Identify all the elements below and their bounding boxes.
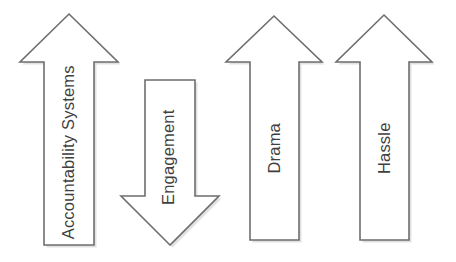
arrow-up-drama[interactable] (226, 16, 322, 240)
arrow-up-accountability-systems[interactable] (20, 14, 118, 245)
arrows-layer (0, 0, 456, 262)
arrow-outlines (20, 14, 432, 245)
arrow-down-engagement[interactable] (121, 80, 219, 245)
diagram-canvas: Accountability Systems Engagement Drama … (0, 0, 456, 262)
arrow-up-hassle[interactable] (336, 15, 432, 240)
